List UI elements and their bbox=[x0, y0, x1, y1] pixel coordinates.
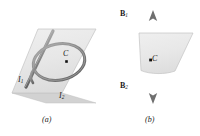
label-field-b2: B2 bbox=[120, 82, 128, 91]
label-center-c-panel-a: C bbox=[63, 50, 68, 58]
label-field-b1: B1 bbox=[120, 10, 128, 19]
panel-b-plane bbox=[139, 33, 193, 74]
label-center-c-panel-b: C bbox=[152, 55, 157, 63]
physics-figure bbox=[0, 0, 200, 136]
panel-a-center-dot bbox=[65, 60, 68, 63]
caption-panel-a: (a) bbox=[42, 116, 51, 124]
label-current-i1: I1 bbox=[18, 76, 23, 85]
panel-a-plane-side bbox=[12, 93, 96, 103]
caption-panel-b: (b) bbox=[145, 116, 154, 124]
panel-a bbox=[12, 29, 96, 103]
label-current-i2: I2 bbox=[59, 92, 64, 101]
panel-b bbox=[139, 10, 193, 104]
